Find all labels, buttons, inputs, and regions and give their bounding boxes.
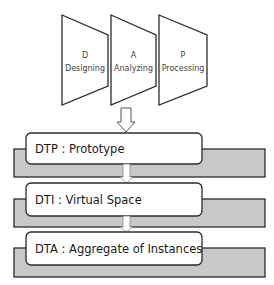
stage-designing: D Designing [62,15,108,105]
stage-letter: P [181,51,186,60]
level-label: DTA : Aggregate of Instances [35,242,202,256]
level-label: DTI : Virtual Space [35,193,142,207]
stage-name: Designing [65,64,105,73]
stage-letter: A [131,51,137,60]
stage-name: Processing [162,64,205,73]
level-label: DTP : Prototype [35,142,124,156]
down-arrow-icon [117,108,135,132]
stage-letter: D [82,51,88,60]
stage-name: Analyzing [114,64,153,73]
stage-processing: P Processing [159,15,207,105]
stage-analyzing: A Analyzing [111,15,156,105]
dt-diagram: D Designing A Analyzing P Processing DTP… [0,0,274,285]
